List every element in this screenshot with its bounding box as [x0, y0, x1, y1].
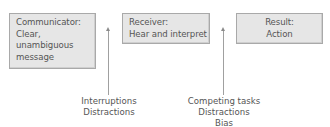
result-text: Action	[237, 29, 322, 41]
barrier-2-line-2: Distractions	[183, 107, 265, 118]
communicator-text-1: Clear,	[16, 29, 95, 41]
barrier-2-line-3: Bias	[183, 118, 265, 127]
barrier-2-line-1: Competing tasks	[183, 96, 265, 107]
receiver-box: Receiver: Hear and interpret	[122, 13, 210, 44]
barrier-2-label: Competing tasks Distractions Bias	[183, 96, 265, 127]
barrier-1-line-2: Distractions	[78, 107, 140, 118]
barrier-2-arrow-icon	[223, 31, 224, 95]
communicator-text-2: unambiguous	[16, 40, 95, 52]
result-title: Result:	[237, 17, 322, 29]
barrier-1-arrow-icon	[108, 31, 109, 95]
communicator-text-3: message	[16, 52, 95, 64]
communicator-box: Communicator: Clear, unambiguous message	[9, 13, 96, 69]
receiver-title: Receiver:	[129, 17, 209, 29]
barrier-1-label: Interruptions Distractions	[78, 96, 140, 118]
barrier-1-line-1: Interruptions	[78, 96, 140, 107]
communicator-title: Communicator:	[16, 17, 95, 29]
result-box: Result: Action	[236, 13, 323, 44]
receiver-text: Hear and interpret	[129, 29, 209, 41]
